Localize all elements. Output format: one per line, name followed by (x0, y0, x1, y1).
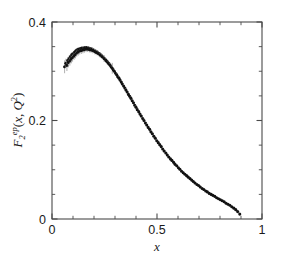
x-axis-title-text: x (153, 239, 160, 254)
figure-root: 00.5100.20.4 x F2ep(x, Q2) (0, 0, 282, 262)
structure-function-plot: 00.5100.20.4 x F2ep(x, Q2) (0, 0, 282, 262)
x-tick-label-1: 0.5 (148, 223, 165, 237)
y-title-sup: ep (9, 127, 19, 135)
y-tick-label-2: 0.4 (29, 16, 46, 30)
data-point (236, 210, 239, 213)
x-tick-label-2: 1 (259, 223, 266, 237)
y-tick-label-0: 0 (39, 213, 46, 227)
data-point (238, 213, 241, 216)
y-tick-label-1: 0.2 (29, 114, 46, 128)
y-title-close-paren: ) (10, 93, 25, 97)
x-axis-title: x (153, 239, 160, 254)
x-tick-label-0: 0 (49, 223, 56, 237)
